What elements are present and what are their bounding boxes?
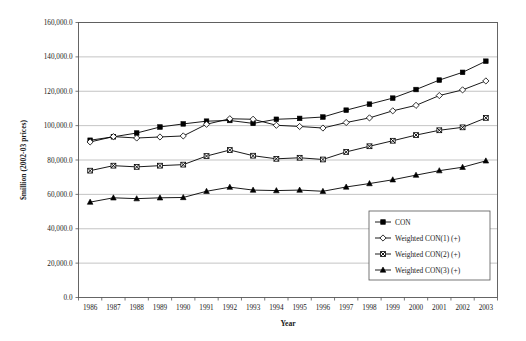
marker-cross-square [344,150,349,155]
marker-cross-square [381,252,386,257]
marker-cross-square [414,133,419,138]
x-tick-label: 1997 [339,304,354,312]
marker-cross-square [321,157,326,162]
marker-filled-square [390,96,395,101]
x-tick-label: 2003 [479,304,494,312]
marker-filled-square [344,108,349,113]
y-tick-label: 140,000.0 [44,53,73,61]
marker-filled-square [437,78,442,83]
legend-label: Weighted CON(3) (+) [395,266,461,275]
x-tick-label: 2001 [432,304,447,312]
marker-cross-square [251,153,256,158]
y-tick-label: 160,000.0 [44,19,73,27]
y-tick-label: 60,000.0 [47,191,73,199]
x-tick-label: 1987 [106,304,121,312]
marker-filled-square [367,102,372,107]
marker-cross-square [111,163,116,168]
line-chart: 0.020,000.040,000.060,000.080,000.0100,0… [0,0,526,341]
x-tick-label: 1993 [246,304,261,312]
x-tick-label: 1998 [362,304,377,312]
marker-cross-square [227,148,232,153]
marker-cross-square [158,163,163,168]
marker-cross-square [181,162,186,167]
x-axis-title: Year [280,319,296,328]
y-tick-label: 100,000.0 [44,122,73,130]
x-tick-label: 2000 [409,304,424,312]
marker-filled-square [158,125,163,130]
x-tick-label: 1989 [153,304,168,312]
x-tick-label: 1991 [199,304,214,312]
marker-cross-square [297,155,302,160]
y-tick-label: 0.0 [64,294,73,302]
x-tick-label: 1996 [316,304,331,312]
x-tick-label: 1986 [83,304,98,312]
marker-cross-square [367,144,372,149]
y-tick-label: 40,000.0 [47,225,73,233]
x-tick-label: 1995 [292,304,307,312]
y-tick-label: 120,000.0 [44,88,73,96]
y-axis-title: $million (2002-03 prices) [19,119,28,200]
marker-filled-square [460,70,465,75]
marker-filled-square [274,117,279,122]
marker-filled-square [381,220,386,225]
x-tick-label: 1988 [130,304,145,312]
marker-cross-square [134,164,139,169]
legend-label: Weighted CON(2) (+) [395,250,461,259]
marker-cross-square [437,128,442,133]
marker-cross-square [274,156,279,161]
chart-figure: 0.020,000.040,000.060,000.080,000.0100,0… [0,0,526,341]
x-tick-label: 1994 [269,304,284,312]
x-tick-label: 1992 [223,304,238,312]
x-tick-label: 2002 [455,304,470,312]
marker-cross-square [88,168,93,173]
marker-cross-square [204,154,209,159]
marker-filled-square [321,115,326,120]
y-tick-label: 80,000.0 [47,157,73,165]
x-tick-label: 1999 [386,304,401,312]
marker-filled-square [297,116,302,121]
marker-cross-square [390,138,395,143]
marker-filled-square [414,87,419,92]
marker-filled-square [181,122,186,127]
marker-cross-square [460,125,465,130]
marker-cross-square [483,115,488,120]
legend-label: CON [395,218,411,227]
x-tick-label: 1990 [176,304,191,312]
chart-legend: CONWeighted CON(1) (+)Weighted CON(2) (+… [369,211,490,280]
marker-filled-square [484,59,489,64]
legend-label: Weighted CON(1) (+) [395,234,461,243]
y-tick-label: 20,000.0 [47,260,73,268]
